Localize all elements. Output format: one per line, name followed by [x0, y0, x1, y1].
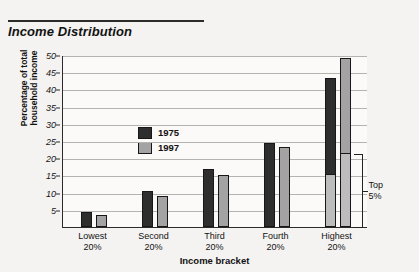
bar-group	[325, 56, 351, 227]
x-axis-tick-label: Third20%	[204, 231, 225, 253]
x-axis-tick-label-line-2: 20%	[138, 242, 169, 253]
x-axis-tick-label-line-1: Third	[204, 231, 225, 242]
bar-1997	[96, 215, 107, 227]
bar-1975	[203, 169, 214, 227]
y-axis-tick	[56, 73, 60, 74]
x-axis-tick-label-line-1: Second	[138, 231, 169, 242]
x-axis-tick-label-line-1: Lowest	[78, 231, 107, 242]
y-axis-tick	[56, 210, 60, 211]
bar-group	[203, 56, 229, 227]
y-axis-tick-label: 40	[46, 85, 56, 95]
x-axis-tick-label-line-1: Fourth	[262, 231, 288, 242]
top5-bracket-tick	[363, 191, 368, 192]
bar-segment-top5	[340, 153, 351, 227]
y-axis-tick-label: 50	[46, 51, 56, 61]
x-axis-tick-label: Lowest20%	[78, 231, 107, 253]
y-axis-tick	[56, 124, 60, 125]
bar-1997	[157, 196, 168, 227]
y-axis-tick-label: 25	[46, 137, 56, 147]
bar-group	[264, 56, 290, 227]
y-axis-tick	[56, 56, 60, 57]
bar-1975	[142, 191, 153, 227]
y-axis-tick-label: 10	[46, 189, 56, 199]
x-axis-tick-label: Second20%	[138, 231, 169, 253]
bar-1997	[218, 175, 229, 227]
cropped-header-text	[10, 2, 200, 9]
y-axis-tick	[56, 90, 60, 91]
y-axis-tick	[56, 107, 60, 108]
top5-bracket	[354, 154, 363, 228]
y-axis-tick-label: 15	[46, 171, 56, 181]
top5-annotation-line-2: 5%	[369, 191, 384, 202]
y-axis-tick-label: 30	[46, 120, 56, 130]
chart-page: Income Distribution Percentage of total …	[0, 0, 419, 272]
bar-1975	[81, 212, 92, 227]
x-axis-tick-label-line-2: 20%	[262, 242, 288, 253]
top5-annotation-label: Top5%	[369, 180, 384, 201]
x-axis-tick-label-line-2: 20%	[78, 242, 107, 253]
bar-group	[142, 56, 168, 227]
bar-segment-top5	[325, 174, 336, 227]
x-axis-title: Income bracket	[62, 255, 367, 266]
bar-1975	[325, 78, 336, 227]
y-axis-tick-label: 20	[46, 154, 56, 164]
y-axis-tick-label: 45	[46, 68, 56, 78]
bar-1997	[340, 58, 351, 227]
bar-group	[81, 56, 107, 227]
y-axis-tick	[56, 193, 60, 194]
x-axis-tick-label: Fourth20%	[262, 231, 288, 253]
top5-annotation-line-1: Top	[369, 180, 384, 191]
plot-area: 1975 1997 Top5%	[62, 56, 367, 228]
x-axis-tick-label: Highest20%	[321, 231, 352, 253]
y-axis-labels: 5101520253035404550	[30, 56, 60, 228]
y-axis-title-line-1: Percentage of total	[19, 13, 29, 163]
y-axis-tick-label: 35	[46, 103, 56, 113]
x-axis-tick-label-line-2: 20%	[204, 242, 225, 253]
y-axis-tick	[56, 159, 60, 160]
bar-1997	[279, 147, 290, 227]
x-axis-tick-label-line-1: Highest	[321, 231, 352, 242]
bar-1975	[264, 143, 275, 227]
y-axis-tick	[56, 142, 60, 143]
x-axis-labels: Lowest20%Second20%Third20%Fourth20%Highe…	[62, 231, 367, 257]
y-axis-tick	[56, 176, 60, 177]
x-axis-tick-label-line-2: 20%	[321, 242, 352, 253]
